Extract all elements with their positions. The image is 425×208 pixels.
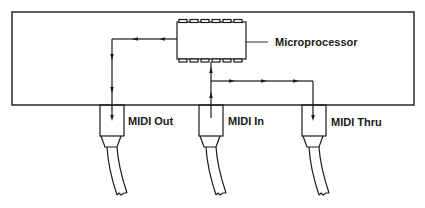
microprocessor-label: Microprocessor	[275, 37, 358, 48]
midi-in-label: MIDI In	[228, 116, 264, 127]
midi-diagram	[0, 0, 425, 208]
midi-in-connector	[199, 105, 226, 195]
midi-out-connector	[100, 105, 127, 195]
midi-thru-label: MIDI Thru	[331, 117, 382, 128]
midi-out-signal-path	[112, 39, 177, 118]
midi-thru-signal-path	[211, 81, 313, 118]
midi-out-label: MIDI Out	[128, 116, 173, 127]
midi-thru-connector	[302, 105, 329, 195]
microprocessor-chip	[177, 20, 246, 63]
